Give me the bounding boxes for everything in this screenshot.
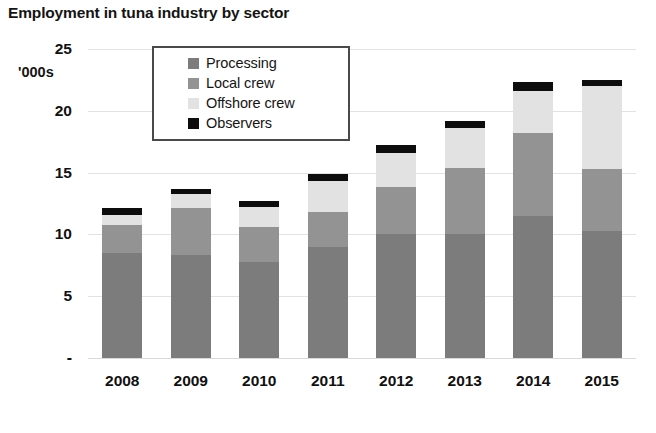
bar-segment-observers — [308, 174, 348, 181]
x-axis-tick-label: 2010 — [242, 372, 276, 390]
bar-segment-offshore-crew — [102, 215, 142, 225]
legend-item-label: Processing — [206, 55, 277, 71]
bar-segment-local-crew — [445, 168, 485, 235]
bar-segment-processing — [239, 262, 279, 358]
bar-segment-local-crew — [171, 208, 211, 255]
bar-segment-local-crew — [513, 133, 553, 216]
bar-segment-local-crew — [582, 169, 622, 231]
x-axis-tick-label: 2014 — [516, 372, 550, 390]
bar-segment-offshore-crew — [308, 181, 348, 212]
x-axis-tick-label: 2009 — [174, 372, 208, 390]
bar-2012[interactable]: 2012 — [376, 145, 416, 358]
bar-segment-offshore-crew — [582, 86, 622, 169]
y-axis-tick-label: 5 — [63, 287, 72, 305]
bar-segment-observers — [376, 145, 416, 152]
y-axis-tick-label: 15 — [55, 164, 72, 182]
legend-item-local-crew[interactable]: Local crew — [162, 73, 342, 93]
chart-container: Employment in tuna industry by sector '0… — [0, 0, 656, 433]
bar-segment-local-crew — [376, 187, 416, 234]
y-axis-unit-label: '000s — [18, 64, 54, 80]
bar-segment-processing — [308, 247, 348, 358]
bar-segment-offshore-crew — [171, 194, 211, 209]
legend-swatch-icon — [188, 118, 199, 129]
x-axis-tick-label: 2011 — [311, 372, 345, 390]
bar-segment-local-crew — [308, 212, 348, 247]
bar-segment-processing — [171, 255, 211, 358]
legend-item-offshore-crew[interactable]: Offshore crew — [162, 93, 342, 113]
bar-2015[interactable]: 2015 — [582, 80, 622, 358]
bar-segment-observers — [445, 121, 485, 128]
legend-item-label: Offshore crew — [206, 95, 295, 111]
x-axis-tick-label: 2012 — [379, 372, 413, 390]
bar-segment-processing — [513, 216, 553, 358]
y-axis-tick-label: 20 — [55, 102, 72, 120]
chart-title: Employment in tuna industry by sector — [8, 4, 289, 22]
bar-segment-processing — [582, 231, 622, 358]
bar-segment-observers — [513, 82, 553, 91]
y-axis-tick-label: 25 — [55, 40, 72, 58]
legend-item-processing[interactable]: Processing — [162, 53, 342, 73]
bar-2008[interactable]: 2008 — [102, 208, 142, 358]
bar-segment-processing — [445, 234, 485, 358]
y-axis-tick-label: 10 — [55, 225, 72, 243]
bar-2010[interactable]: 2010 — [239, 201, 279, 358]
legend-swatch-icon — [188, 78, 199, 89]
bar-2011[interactable]: 2011 — [308, 174, 348, 358]
bar-2013[interactable]: 2013 — [445, 121, 485, 358]
legend-swatch-icon — [188, 98, 199, 109]
bar-segment-processing — [376, 234, 416, 358]
x-axis-tick-label: 2015 — [585, 372, 619, 390]
bar-segment-processing — [102, 253, 142, 358]
x-axis-tick-label: 2013 — [448, 372, 482, 390]
bar-segment-local-crew — [239, 227, 279, 262]
bar-segment-offshore-crew — [445, 128, 485, 168]
x-axis-tick-label: 2008 — [105, 372, 139, 390]
bar-segment-offshore-crew — [376, 153, 416, 188]
gridline — [88, 358, 636, 359]
legend-swatch-icon — [188, 58, 199, 69]
gridline — [88, 173, 636, 174]
bar-segment-offshore-crew — [239, 207, 279, 227]
legend-item-label: Local crew — [206, 75, 274, 91]
bar-2014[interactable]: 2014 — [513, 82, 553, 358]
bar-segment-offshore-crew — [513, 91, 553, 133]
legend-item-observers[interactable]: Observers — [162, 113, 342, 133]
chart-legend: ProcessingLocal crewOffshore crewObserve… — [152, 46, 350, 141]
bar-2009[interactable]: 2009 — [171, 189, 211, 358]
y-axis-tick-label: - — [67, 349, 72, 367]
legend-item-label: Observers — [206, 115, 272, 131]
bar-segment-local-crew — [102, 225, 142, 253]
